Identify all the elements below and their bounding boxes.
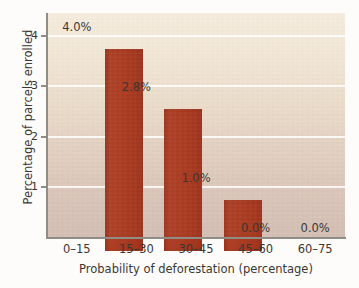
x-axis-tick-label: 0–15 (47, 243, 107, 256)
y-axis-tick (41, 186, 47, 188)
bar-value-label: 0.0% (285, 222, 345, 234)
y-axis-tick (41, 85, 47, 87)
y-axis-tick (41, 136, 47, 138)
x-axis-line (46, 237, 346, 239)
x-axis-title: Probability of deforestation (percentage… (47, 262, 345, 276)
y-axis-tick (41, 35, 47, 37)
x-axis-tick-label: 15–30 (106, 243, 166, 256)
bar-chart-figure: 1234 4.0%2.8%1.0%0.0%0.0% 0–1515–3030–45… (0, 0, 359, 288)
x-axis-tick-label: 30–45 (166, 243, 226, 256)
y-axis-title: Percentage of parcels enrolled (21, 27, 35, 207)
x-axis-tick-label: 45–60 (226, 243, 286, 256)
bar (105, 49, 143, 251)
bar-value-label: 1.0% (166, 172, 226, 184)
y-axis-line (46, 13, 48, 239)
bar-value-label: 0.0% (226, 222, 286, 234)
plot-area (47, 13, 345, 238)
x-axis-tick-labels: 0–1515–3030–4545–6060–75 (47, 243, 345, 259)
bar-value-label: 4.0% (47, 21, 107, 33)
x-axis-tick-label: 60–75 (285, 243, 345, 256)
bar-value-label: 2.8% (106, 81, 166, 93)
bars-group (94, 26, 359, 251)
